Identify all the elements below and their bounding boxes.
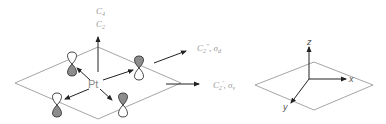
x-axis-label: x (348, 74, 354, 84)
square-planar-complex: C4 C2 Pt (15, 6, 236, 119)
z-axis-label: z (306, 37, 312, 47)
coordinate-axes-panel: z x y (255, 37, 373, 112)
y-axis-label: y (282, 102, 288, 112)
c2-double-prime-axis-arrow (154, 51, 186, 63)
xy-plane (255, 62, 373, 110)
bond-arrow-top-right (103, 70, 133, 80)
p-orbital-top-right (135, 56, 144, 80)
bond-arrow-bottom-left (65, 89, 89, 99)
p-orbital-bottom-right (119, 93, 128, 117)
bond-arrow-top-left (77, 68, 90, 80)
symmetry-diagram: C4 C2 Pt (0, 0, 386, 124)
c2-double-prime-sigma-d-label: C2″, σd (197, 42, 222, 54)
c2-label: C2 (96, 19, 105, 30)
y-axis-arrow (291, 79, 309, 103)
c4-label: C4 (96, 6, 105, 17)
bond-arrow-bottom-right (100, 89, 112, 100)
c2-prime-sigma-v-label: C2′, σv (213, 79, 236, 91)
p-orbital-top-left (68, 52, 77, 76)
p-orbital-bottom-left (53, 93, 62, 117)
